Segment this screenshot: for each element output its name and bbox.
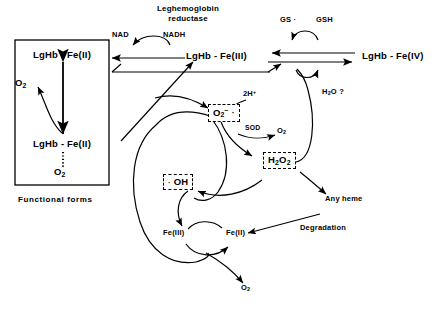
functional-oxygen-released-label: O2 [15, 78, 27, 89]
proton-label: 2H+ [243, 90, 256, 98]
superoxide-to-fenton-curve [194, 119, 227, 200]
iron-three-label: Fe(III) [163, 229, 184, 237]
superoxide-loop-left [156, 112, 210, 125]
superoxide-species-box: O2− · [208, 104, 240, 122]
fenton-oxygen-label: O2 [241, 284, 250, 293]
diagram-arrows-layer [0, 0, 437, 310]
iron-two-to-iron-three-arc [188, 222, 222, 229]
functional-ferrous-bottom-label: LgHb - Fe(II) [33, 139, 91, 149]
autoxidation-to-ferric-arrow [121, 62, 193, 141]
water-label: H2O ? [322, 88, 344, 97]
into-superoxide-arrow [155, 96, 208, 108]
degradation-label: Degradation [300, 224, 346, 232]
peroxide-to-heme-arrow [300, 172, 326, 194]
sod-enzyme-label: SOD [245, 124, 260, 131]
fenton-oxygen-output-arrow [206, 253, 243, 283]
glutathione-radical-label: GS · [280, 16, 296, 24]
functional-forms-caption: Functional forms [18, 196, 93, 204]
diagram-canvas: Leghemoglobin reductase NAD NADH LgHb - … [0, 0, 437, 310]
oxygen-release-arrow [38, 87, 62, 133]
glutathione-label: GSH [316, 16, 333, 24]
enzyme-name-line2: reductase [168, 14, 208, 23]
hydroxyl-to-iron-three-arrow [178, 191, 188, 226]
enzyme-label: Leghemoglobin reductase [140, 4, 236, 24]
nadh-label: NADH [163, 31, 185, 39]
return-line-left-kink [112, 64, 121, 72]
ferryl-species-label: LgHb - Fe(IV) [362, 51, 424, 61]
ferric-species-label: LgHb - Fe(III) [186, 51, 247, 61]
gsh-to-gs-radical-arc [292, 31, 318, 40]
outer-recycle-loop [133, 125, 196, 263]
sod-oxygen-label: O2 [277, 127, 286, 136]
hydroxyl-radical-box: · OH [163, 174, 193, 190]
iron-two-label: Fe(II) [226, 229, 245, 237]
peroxide-species-box: H2O2 [263, 152, 296, 169]
any-heme-label: Any heme [325, 195, 362, 203]
nad-label: NAD [112, 31, 129, 39]
fenton-to-hydroxyl-arrow [198, 180, 262, 195]
functional-ferrous-top-label: LgHb - Fe(II) [33, 50, 91, 60]
functional-bound-oxygen-label: O2 [54, 167, 66, 178]
sod-oxygen-output-arrow [238, 134, 275, 138]
peroxide-to-ferryl-curve [296, 69, 312, 162]
enzyme-name-line1: Leghemoglobin [157, 4, 219, 13]
return-line-arrowhead [268, 64, 281, 72]
